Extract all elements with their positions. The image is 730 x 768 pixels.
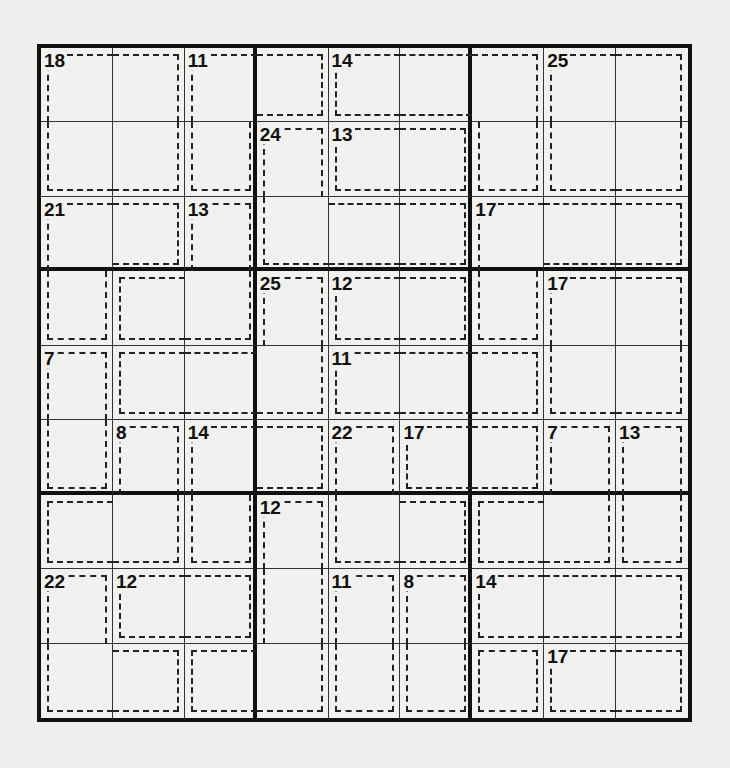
cage-outline: [616, 122, 682, 190]
cage-outline: [113, 650, 179, 712]
cage-outline: [622, 495, 682, 563]
cage-sum: 12: [260, 498, 283, 517]
cage-sum: 14: [332, 51, 355, 70]
cage-sum: 12: [332, 274, 355, 293]
cage-sum: 11: [188, 51, 210, 70]
cage-outline: [47, 420, 107, 488]
cage-outline: [47, 644, 113, 712]
cage-outline: [550, 346, 616, 414]
cage-outline: [257, 426, 323, 488]
cage-sum: 17: [547, 647, 570, 666]
cage-outline: [191, 495, 251, 563]
cage-outline: [329, 203, 401, 265]
cage-outline: [113, 54, 179, 122]
cage-outline: [335, 495, 401, 563]
cage-sum: 14: [475, 572, 498, 591]
cage-sum: 13: [332, 125, 355, 144]
cage-outline: [113, 495, 179, 563]
cage-outline: [263, 569, 323, 643]
cage-sum: 13: [619, 423, 642, 442]
cage-outline: [257, 644, 323, 712]
cage-outline: [616, 650, 682, 712]
cage-outline: [191, 650, 257, 712]
cage-outline: [185, 352, 257, 414]
cage-sum: 17: [403, 423, 426, 442]
cage-sum: 11: [332, 572, 354, 591]
cage-outline: [191, 122, 251, 190]
cage-sum: 12: [116, 572, 139, 591]
cage-outline: [185, 575, 251, 637]
cage-sum: 22: [44, 572, 67, 591]
cage-outline: [478, 501, 544, 563]
cage-sum: 21: [44, 200, 67, 219]
cage-outline: [550, 122, 616, 190]
cage-outline: [478, 271, 538, 339]
cage-sum: 18: [44, 51, 67, 70]
cage-sum: 25: [547, 51, 570, 70]
cage-sum: 13: [188, 200, 211, 219]
cage-outline: [616, 54, 682, 122]
cage-sum: 8: [116, 423, 129, 442]
cage-sum: 25: [260, 274, 283, 293]
cage-sum: 24: [260, 125, 283, 144]
cage-outline: [257, 54, 323, 116]
cage-outline: [47, 122, 113, 190]
cage-outline: [47, 271, 107, 339]
cage-sum: 7: [547, 423, 560, 442]
cage-outline: [406, 644, 466, 712]
cage-outline: [47, 501, 113, 563]
cage-outline: [400, 501, 466, 563]
cage-sum: 11: [332, 349, 354, 368]
cage-outline: [119, 277, 185, 339]
cage-outline: [616, 346, 682, 414]
cage-sum: 17: [547, 274, 570, 293]
cage-outline: [616, 203, 682, 265]
killer-sudoku-board: 1811142524132113172512177118142217713122…: [37, 44, 692, 722]
cage-outline: [400, 352, 472, 414]
cage-outline: [616, 277, 682, 345]
cage-sum: 17: [475, 200, 498, 219]
cage-sum: 14: [188, 423, 211, 442]
cage-sum: 8: [403, 572, 416, 591]
cage-outline: [113, 203, 179, 265]
cage-outline: [478, 122, 538, 190]
cage-outline: [400, 54, 472, 116]
cage-outline: [400, 203, 466, 265]
cage-sum: 22: [332, 423, 355, 442]
cage-outline: [544, 495, 610, 563]
cage-outline: [616, 575, 682, 637]
cage-outline: [472, 426, 538, 488]
cage-outline: [400, 277, 466, 339]
cage-outline: [257, 346, 323, 414]
cage-outline: [185, 271, 251, 339]
cage-outline: [478, 650, 538, 712]
cage-outline: [113, 122, 179, 190]
cage-outline: [544, 575, 616, 637]
cage-sum: 7: [44, 349, 57, 368]
cage-outline: [472, 352, 538, 414]
cage-outline: [544, 203, 616, 265]
cage-outline: [472, 54, 538, 122]
cage-outline: [119, 352, 185, 414]
cage-outline: [263, 197, 329, 265]
cage-outline: [335, 644, 395, 712]
cage-outline: [400, 128, 466, 190]
